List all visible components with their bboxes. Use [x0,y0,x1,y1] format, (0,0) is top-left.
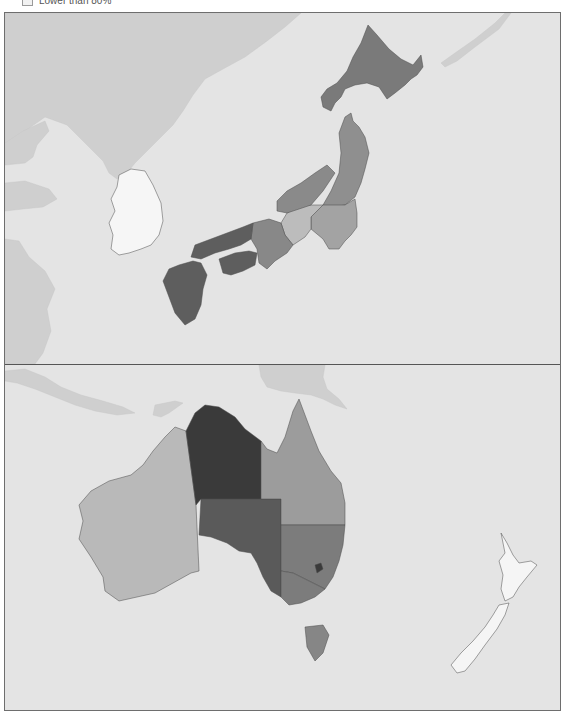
legend-label: Lower than 80% [39,0,111,6]
region-northern-territory[interactable] [186,405,261,505]
legend: Lower than 80% [22,0,111,7]
region-western-australia[interactable] [79,427,199,601]
other-land-layer [5,13,511,364]
region-tohoku[interactable] [323,113,369,207]
region-shikoku[interactable] [219,251,257,275]
map-panel-east-asia[interactable] [5,13,560,365]
region-south-korea[interactable] [109,169,163,255]
indonesia-islands [5,369,135,415]
region-south-australia[interactable] [199,499,281,597]
region-new-zealand-north[interactable] [499,533,537,601]
map-frame [4,12,561,711]
east-asia-map[interactable] [5,13,560,364]
region-kyushu[interactable] [163,261,207,325]
kuril-islands [441,13,511,67]
region-tasmania[interactable] [305,625,329,661]
asia-mainland-north [5,13,301,179]
new-guinea [259,365,347,409]
shandong-peninsula [5,181,57,211]
map-panel-oceania[interactable] [5,365,560,711]
timor [153,401,183,417]
region-new-zealand-south[interactable] [451,603,509,673]
region-hokkaido[interactable] [321,25,423,111]
legend-swatch-lower-than-80 [22,0,33,6]
oceania-map[interactable] [5,365,560,711]
regions-layer [79,399,537,673]
china-east [5,239,55,364]
